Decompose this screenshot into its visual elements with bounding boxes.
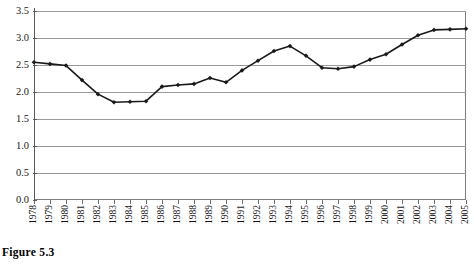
data-point-marker [336, 66, 341, 71]
data-point-marker [128, 99, 133, 104]
figure-caption: Figure 5.3 [2, 246, 55, 258]
data-point-marker [48, 62, 53, 67]
data-point-marker [32, 60, 37, 65]
figure-container: 0.00.51.01.52.02.53.03.5 197819791980198… [0, 0, 474, 268]
data-point-marker [192, 82, 197, 87]
data-point-marker [448, 27, 453, 32]
data-point-marker [176, 83, 181, 88]
data-series [0, 0, 474, 240]
series-line [34, 29, 466, 102]
data-point-marker [208, 76, 213, 81]
line-chart: 0.00.51.01.52.02.53.03.5 197819791980198… [0, 0, 474, 240]
data-point-marker [464, 27, 469, 32]
data-point-marker [432, 28, 437, 33]
data-point-marker [368, 57, 373, 62]
data-point-marker [352, 64, 357, 69]
